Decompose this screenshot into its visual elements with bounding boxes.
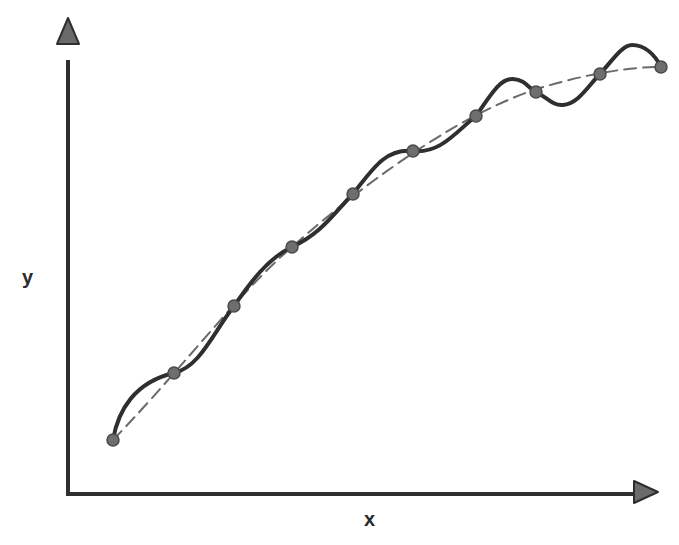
data-point — [347, 188, 359, 200]
y-axis-label: y — [22, 266, 33, 289]
overfit-curve — [113, 45, 661, 440]
data-point — [594, 68, 606, 80]
data-points — [107, 61, 667, 446]
x-axis-label: x — [364, 508, 375, 531]
data-point — [470, 110, 482, 122]
data-point — [286, 241, 298, 253]
data-point — [407, 145, 419, 157]
data-point — [228, 300, 240, 312]
x-axis-arrow-icon — [634, 481, 658, 503]
data-point — [107, 434, 119, 446]
data-point — [168, 367, 180, 379]
data-point — [530, 86, 542, 98]
overfitting-diagram — [0, 0, 679, 545]
data-point — [655, 61, 667, 73]
trend-curve — [113, 67, 661, 440]
y-axis-arrow-icon — [57, 18, 79, 44]
